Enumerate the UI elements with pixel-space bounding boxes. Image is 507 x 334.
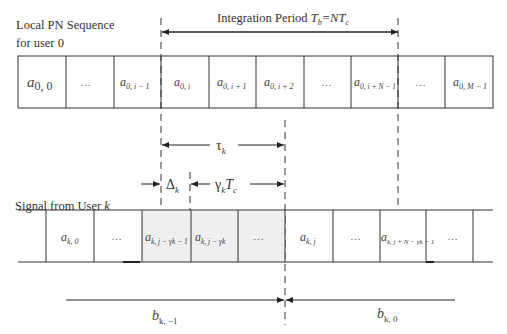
bottom-cell-1: …	[111, 230, 122, 242]
top-cell-6: …	[321, 76, 332, 88]
integration-period-label: Integration Period Tb=NTc	[217, 11, 349, 27]
pn-sequence-timing-diagram: Local PN Sequence for user 0 Integration…	[0, 0, 507, 334]
tau-label: τk	[216, 138, 227, 156]
top-cell-1: …	[80, 76, 91, 88]
local-seq-label-line2: for user 0	[16, 36, 64, 50]
top-cell-0: a0, 0	[27, 74, 53, 93]
local-pn-cells: a0, 0 … a0, i − 1 a0, i a0, i + 1 a0, i …	[27, 74, 487, 93]
delta-label: Δk	[166, 177, 180, 195]
top-cell-5: a0, i + 2	[264, 75, 294, 91]
top-cell-4: a0, i + 1	[217, 75, 247, 91]
top-cell-8: …	[415, 76, 426, 88]
bottom-cell-4: …	[253, 230, 264, 242]
dashed-markers	[161, 18, 398, 325]
signal-from-user-label: Signal from User k	[15, 199, 110, 213]
bottom-cell-5: ak, j	[300, 230, 317, 246]
bottom-cell-6: …	[350, 230, 361, 242]
top-cell-9: a0, M − 1	[453, 75, 487, 91]
bottom-cell-8: …	[447, 230, 458, 242]
top-cell-2: a0, i − 1	[120, 75, 150, 91]
top-cell-7: a0, i + N − 1	[354, 75, 396, 91]
bottom-cell-0: ak, 0	[61, 230, 79, 246]
gamma-tc-label: γkTc	[214, 177, 237, 195]
bit-prev-label: bk, −1	[152, 308, 178, 326]
top-cell-3: a0, i	[174, 75, 190, 91]
local-seq-label-line1: Local PN Sequence	[16, 18, 115, 32]
bit-curr-label: bk, 0	[377, 306, 398, 324]
